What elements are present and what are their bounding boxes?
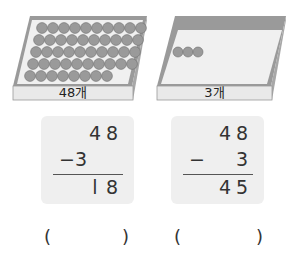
- coin-icon: [81, 23, 92, 34]
- coin-icon: [105, 59, 116, 70]
- coin-icon: [53, 47, 64, 58]
- coin-icon: [103, 23, 114, 34]
- coin-icon: [80, 71, 91, 82]
- coin-icon: [69, 71, 80, 82]
- sum-line: [53, 174, 123, 175]
- answer-blank-2-open: (: [174, 226, 181, 247]
- coin-box-3: 3개: [145, 0, 291, 110]
- coin-icon: [42, 47, 53, 58]
- minus-operator: −: [189, 148, 201, 170]
- coin-icon: [92, 23, 103, 34]
- coin-icon: [78, 35, 89, 46]
- coin-icon: [108, 47, 119, 58]
- result-tens: 4: [219, 176, 231, 198]
- coin-icon: [72, 59, 83, 70]
- minuend-tens: 4: [89, 122, 101, 144]
- coin-icon: [133, 35, 144, 46]
- subtrahend: 3: [75, 148, 87, 170]
- sum-line: [183, 174, 253, 175]
- coin-icon: [37, 23, 48, 34]
- coin-icon: [114, 23, 125, 34]
- coin-icon: [102, 71, 113, 82]
- coin-icon: [25, 71, 36, 82]
- coin-icon: [47, 71, 58, 82]
- coin-icon: [36, 71, 47, 82]
- coin-icon: [173, 47, 183, 57]
- coin-icon: [39, 59, 50, 70]
- coin-icon: [130, 47, 141, 58]
- answer-blank-1-close: ): [122, 226, 129, 247]
- coin-icon: [183, 47, 193, 57]
- coin-icon: [56, 35, 67, 46]
- coin-icon: [70, 23, 81, 34]
- coin-icon: [75, 47, 86, 58]
- coin-icon: [100, 35, 111, 46]
- coin-icon: [116, 59, 127, 70]
- minus-operator: −: [59, 148, 71, 170]
- coin-icon: [31, 47, 42, 58]
- coin-icon: [94, 59, 105, 70]
- coin-icon: [61, 59, 72, 70]
- coin-icon: [127, 59, 138, 70]
- coin-icon: [48, 23, 59, 34]
- box-count-label: 48개: [13, 86, 133, 100]
- coin-icon: [119, 47, 130, 58]
- result-ones: 8: [106, 176, 118, 198]
- coins-group: [173, 47, 203, 57]
- minuend-ones: 8: [236, 122, 248, 144]
- coin-icon: [193, 47, 203, 57]
- coin-icon: [86, 47, 97, 58]
- subtrahend: 3: [236, 148, 248, 170]
- box-count-label: 3개: [157, 86, 272, 100]
- coin-icon: [97, 47, 108, 58]
- coin-icon: [111, 35, 122, 46]
- coin-icon: [125, 23, 136, 34]
- answer-blank-2-close: ): [256, 226, 263, 247]
- coin-icon: [64, 47, 75, 58]
- coin-box-48: 48개: [0, 0, 150, 110]
- coin-icon: [45, 35, 56, 46]
- coin-icon: [122, 35, 133, 46]
- coin-icon: [91, 71, 102, 82]
- coin-icon: [59, 23, 70, 34]
- coin-icon: [34, 35, 45, 46]
- minuend-tens: 4: [219, 122, 231, 144]
- coin-icon: [28, 59, 39, 70]
- result-tens: l: [89, 176, 101, 198]
- answer-blank-1-open: (: [44, 226, 51, 247]
- coin-icon: [67, 35, 78, 46]
- coin-icon: [89, 35, 100, 46]
- coin-icon: [50, 59, 61, 70]
- coin-icon: [58, 71, 69, 82]
- minuend-ones: 8: [106, 122, 118, 144]
- subtraction-card-2: 4 8 − 3 4 5: [171, 116, 264, 204]
- result-ones: 5: [236, 176, 248, 198]
- coin-icon: [83, 59, 94, 70]
- subtraction-card-1: 4 8 − 3 l 8: [41, 116, 134, 204]
